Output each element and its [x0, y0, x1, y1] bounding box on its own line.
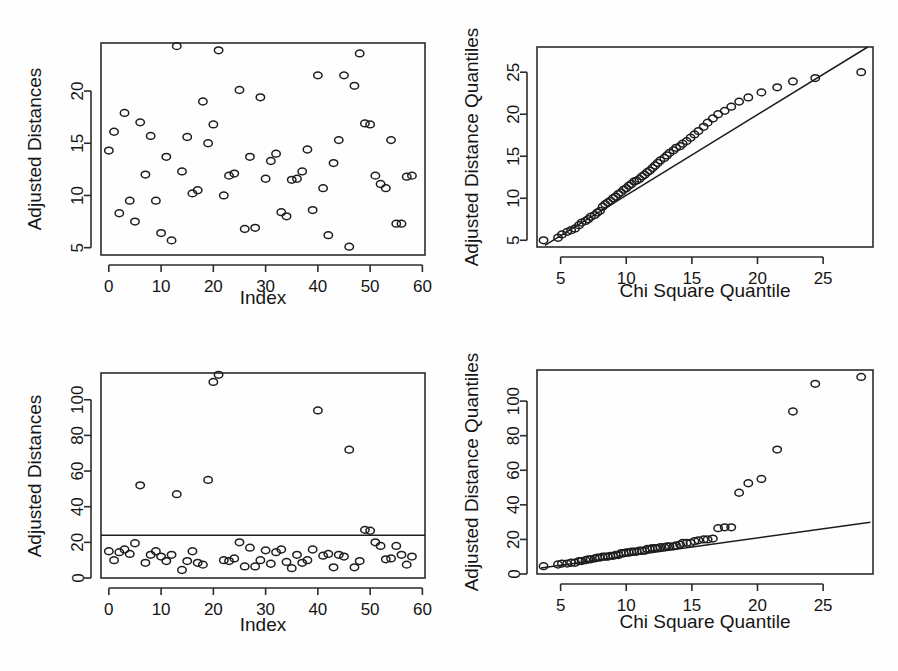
data-point	[539, 563, 547, 570]
x-tick-label: 40	[308, 600, 327, 619]
data-point	[371, 172, 379, 179]
y-tick-label: 25	[505, 63, 524, 82]
data-point	[282, 213, 290, 220]
x-axis-title: Chi Square Quantile	[619, 611, 790, 632]
data-point	[220, 192, 228, 199]
y-tick-label: 0	[69, 573, 88, 582]
y-tick-label: 20	[69, 533, 88, 552]
data-point	[120, 110, 128, 117]
data-point	[256, 557, 264, 564]
data-point	[376, 181, 384, 188]
data-point	[272, 150, 280, 157]
y-axis-title: Adjusted Distances	[24, 68, 45, 231]
panel-top-right: 510152025510152025Chi Square QuantileAdj…	[449, 0, 898, 336]
x-tick-label: 10	[152, 600, 171, 619]
data-point	[246, 153, 254, 160]
data-point	[319, 552, 327, 559]
data-point	[173, 491, 181, 498]
data-point	[235, 87, 243, 94]
data-point	[397, 220, 405, 227]
data-point	[110, 128, 118, 135]
data-point	[126, 197, 134, 204]
data-point	[335, 551, 343, 558]
x-axis-title: Chi Square Quantile	[619, 280, 790, 301]
data-point	[251, 224, 259, 231]
data-point	[141, 171, 149, 178]
data-point	[162, 153, 170, 160]
data-point	[214, 47, 222, 54]
x-tick-label: 0	[104, 277, 113, 296]
data-point	[193, 559, 201, 566]
y-axis-title: Adjusted Distance Quantiles	[461, 28, 482, 267]
data-point	[329, 160, 337, 167]
panel-bottom-left: 0102030405060020406080100IndexAdjusted D…	[0, 336, 449, 671]
panel-top-left-svg: 01020304050605101520IndexAdjusted Distan…	[0, 0, 449, 336]
data-point	[308, 546, 316, 553]
data-point	[387, 137, 395, 144]
data-point	[256, 94, 264, 101]
data-point	[355, 558, 363, 565]
y-tick-label: 100	[505, 387, 524, 415]
data-point	[345, 446, 353, 453]
data-point	[246, 544, 254, 551]
data-point	[366, 121, 374, 128]
data-point	[131, 540, 139, 547]
data-point	[335, 137, 343, 144]
data-points	[105, 43, 416, 250]
data-point	[340, 72, 348, 79]
data-point	[251, 563, 259, 570]
y-tick-label: 15	[505, 147, 524, 166]
data-point	[811, 380, 819, 387]
data-point	[188, 548, 196, 555]
x-tick-label: 5	[556, 596, 565, 615]
x-axis-title: Index	[240, 614, 287, 635]
data-point	[735, 489, 743, 496]
plot-frame	[101, 43, 425, 255]
data-point	[857, 69, 865, 76]
data-point	[178, 168, 186, 175]
x-axis-title: Index	[240, 287, 287, 308]
data-point	[209, 121, 217, 128]
y-tick-label: 15	[69, 134, 88, 153]
data-point	[340, 553, 348, 560]
y-tick-label: 60	[505, 461, 524, 480]
y-axis-title: Adjusted Distances	[24, 395, 45, 558]
data-point	[157, 553, 165, 560]
data-point	[757, 89, 765, 96]
data-point	[110, 557, 118, 564]
data-point	[293, 551, 301, 558]
y-axis-title: Adjusted Distance Quantiles	[461, 353, 482, 592]
x-tick-label: 20	[204, 600, 223, 619]
data-point	[293, 175, 301, 182]
data-point	[105, 548, 113, 555]
y-tick-label: 40	[69, 497, 88, 516]
data-point	[183, 558, 191, 565]
data-point	[857, 374, 865, 381]
data-point	[288, 565, 296, 572]
data-point	[366, 527, 374, 534]
data-point	[324, 551, 332, 558]
data-point	[183, 134, 191, 141]
data-point	[350, 82, 358, 89]
data-point	[199, 561, 207, 568]
data-point	[757, 476, 765, 483]
y-tick-label: 100	[69, 386, 88, 414]
data-point	[387, 555, 395, 562]
y-tick-label: 20	[69, 82, 88, 101]
data-point	[157, 230, 165, 237]
data-point	[136, 119, 144, 126]
data-point	[789, 78, 797, 85]
data-point	[178, 567, 186, 574]
data-point	[350, 564, 358, 571]
panel-top-right-svg: 510152025510152025Chi Square QuantileAdj…	[449, 0, 898, 336]
data-points	[105, 371, 416, 573]
data-point	[408, 553, 416, 560]
data-point	[382, 185, 390, 192]
data-point	[392, 543, 400, 550]
panel-bottom-left-svg: 0102030405060020406080100IndexAdjusted D…	[0, 336, 449, 671]
data-point	[241, 225, 249, 232]
data-point	[727, 103, 735, 110]
data-points	[539, 374, 865, 570]
data-point	[314, 407, 322, 414]
data-point	[115, 210, 123, 217]
